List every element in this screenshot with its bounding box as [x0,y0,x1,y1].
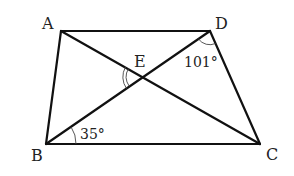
angle-arc-E-inner [126,69,129,87]
angle-arc-B [71,127,76,144]
point-label-E: E [134,52,146,71]
segment-BD [46,31,210,144]
segments [46,31,260,144]
point-label-B: B [31,146,43,165]
segment-DC [210,31,260,144]
point-label-D: D [215,14,228,33]
point-label-C: C [266,145,278,164]
point-label-A: A [41,14,54,33]
angle-label-D: 101° [184,54,218,70]
geometry-diagram: A D E B C 101° 35° [0,0,294,176]
angle-label-B: 35° [80,126,105,142]
segment-AB [46,31,61,144]
